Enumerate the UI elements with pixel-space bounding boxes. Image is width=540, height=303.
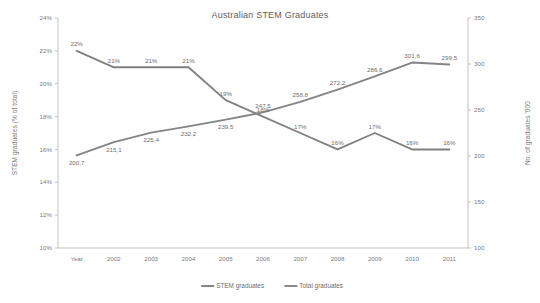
right-tick-label: 150: [474, 198, 485, 205]
left-tick-label: 10%: [40, 244, 53, 251]
left-tick-label: 24%: [40, 14, 53, 21]
category-label: 2004: [182, 255, 196, 262]
category-label: 2006: [256, 255, 270, 262]
data-label: 16%: [406, 139, 419, 146]
data-labels-group: 22%21%21%21%19%18%17%16%17%16%16%200,721…: [69, 40, 458, 165]
left-tick-label: 22%: [40, 47, 53, 54]
right-tick-label: 350: [474, 14, 485, 21]
legend-label: STEM graduates: [216, 282, 264, 290]
data-label: 19%: [220, 90, 233, 97]
right-tick-label: 300: [474, 60, 485, 67]
data-label: 258,8: [293, 91, 309, 98]
data-label: 21%: [108, 57, 121, 64]
category-axis-labels: Year200220032004200520062007200820092010…: [70, 255, 456, 262]
data-label: 21%: [145, 57, 158, 64]
chart-container: Australian STEM Graduates STEM graduates…: [0, 0, 540, 303]
data-label: 239,5: [218, 123, 234, 130]
data-label: 232,2: [181, 130, 197, 137]
category-label: 2011: [443, 255, 457, 262]
legend-label: Total graduates: [299, 282, 343, 290]
data-label: 301,6: [404, 52, 420, 59]
category-label: 2007: [293, 255, 307, 262]
right-axis-ticks: 100150200250300350: [468, 14, 485, 251]
data-label: 247,5: [255, 102, 271, 109]
category-label: 2002: [107, 255, 121, 262]
category-label: 2003: [144, 255, 158, 262]
data-label: 272,2: [330, 79, 346, 86]
legend: STEM graduatesTotal graduates: [201, 282, 343, 290]
right-tick-label: 100: [474, 244, 485, 251]
right-tick-label: 200: [474, 152, 485, 159]
data-label: 299,5: [442, 54, 458, 61]
left-axis-ticks: 10%12%14%16%18%20%22%24%: [40, 14, 58, 251]
left-tick-label: 16%: [40, 146, 53, 153]
data-label: 21%: [182, 57, 195, 64]
data-label: 16%: [331, 139, 344, 146]
right-tick-label: 250: [474, 106, 485, 113]
data-label: 16%: [443, 139, 456, 146]
left-tick-label: 20%: [40, 80, 53, 87]
data-label: 286,6: [367, 66, 383, 73]
data-label: 22%: [70, 40, 83, 47]
data-label: 17%: [294, 123, 307, 130]
data-label: 200,7: [69, 159, 85, 166]
series-line-stem-graduates: [77, 51, 450, 150]
category-label: 2008: [331, 255, 345, 262]
left-tick-label: 18%: [40, 113, 53, 120]
data-label: 225,4: [143, 136, 159, 143]
data-label: 17%: [369, 123, 382, 130]
category-label: 2010: [405, 255, 419, 262]
category-label: 2009: [368, 255, 382, 262]
left-tick-label: 14%: [40, 178, 53, 185]
category-label: 2005: [219, 255, 233, 262]
left-tick-label: 12%: [40, 211, 53, 218]
category-label: Year: [70, 255, 83, 262]
chart-plot: 10%12%14%16%18%20%22%24% 100150200250300…: [0, 0, 540, 303]
data-label: 215,1: [106, 146, 122, 153]
